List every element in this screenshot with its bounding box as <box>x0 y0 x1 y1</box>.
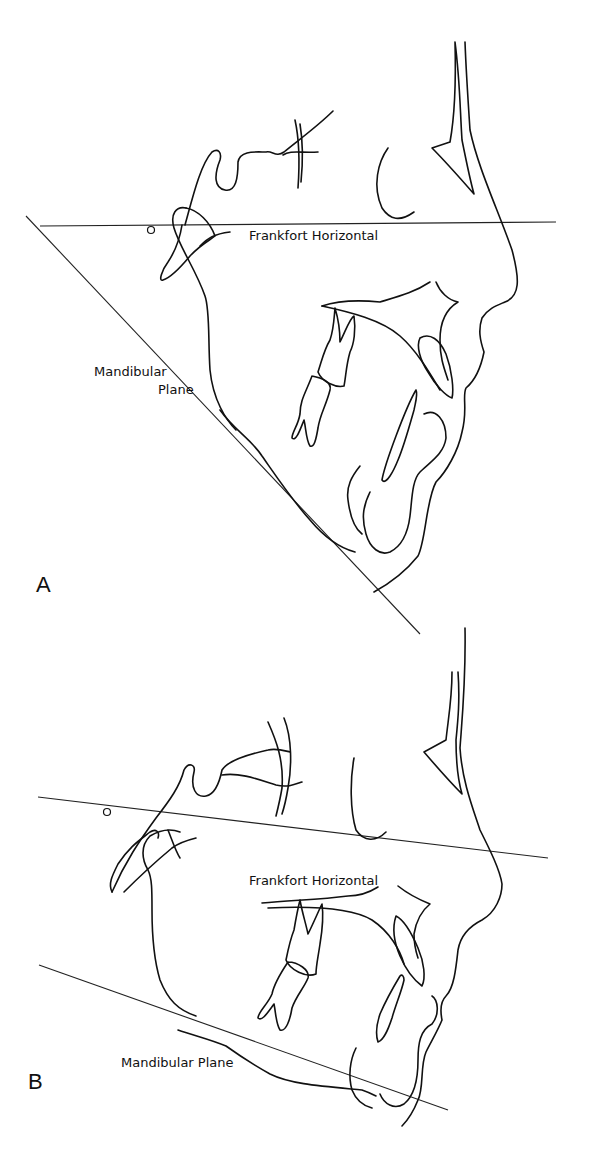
upper-incisor-b <box>394 916 424 986</box>
palate-a <box>322 282 430 306</box>
cranial-base-trace-b <box>112 749 290 892</box>
panel-b: Frankfort Horizontal Mandibular Plane B <box>28 628 548 1126</box>
mandibular-plane-label-b: Mandibular Plane <box>121 1055 234 1070</box>
nasal-ala-b <box>351 758 386 839</box>
lower-molar-b <box>258 962 308 1030</box>
frontal-nasal-a <box>432 42 474 194</box>
maxilla-b <box>268 907 404 964</box>
mandibular-plane-line-b <box>39 965 448 1110</box>
frontal-nasal-b <box>424 672 462 794</box>
palate-b <box>262 887 378 903</box>
chin-a <box>363 412 446 553</box>
lower-incisor-a <box>382 390 417 481</box>
coronoid-a <box>161 208 215 280</box>
mandibular-plane-label-a-line2: Plane <box>158 382 194 397</box>
mandible-border-a <box>220 410 355 552</box>
orbit-rim-a <box>295 120 299 188</box>
cranial-base-trace-a <box>185 111 333 225</box>
zygoma-b <box>124 838 196 892</box>
mandibular-plane-label-a-line1: Mandibular <box>94 364 167 379</box>
upper-molar-b <box>286 900 323 975</box>
soft-tissue-profile-b <box>402 628 502 1126</box>
frankfort-horizontal-label-b: Frankfort Horizontal <box>249 873 378 888</box>
orbit-trace-a <box>283 152 318 155</box>
porion-marker-a <box>148 227 155 234</box>
mandibular-plane-line-a <box>26 216 420 634</box>
orbit-rim2-a <box>300 124 302 182</box>
panel-a: Frankfort Horizontal Mandibular Plane A <box>26 42 556 634</box>
anterior-maxilla-a <box>436 282 458 380</box>
symphysis-b <box>350 1048 372 1108</box>
panel-label-a: A <box>36 572 51 597</box>
soft-tissue-profile-a <box>374 42 517 592</box>
orbit-rim-b <box>268 722 282 816</box>
orbit-rim2-b <box>282 718 291 814</box>
chin-b <box>380 996 437 1106</box>
nasal-ala-a <box>377 148 414 218</box>
frankfort-horizontal-label-a: Frankfort Horizontal <box>249 228 378 243</box>
frankfort-horizontal-line-a <box>40 222 556 226</box>
upper-incisor-a <box>418 336 452 398</box>
ramus-b <box>143 830 196 1016</box>
lower-incisor-b <box>377 975 404 1042</box>
cephalometric-figure: Frankfort Horizontal Mandibular Plane A <box>0 0 590 1153</box>
upper-molar-a <box>318 308 355 386</box>
porion-marker-b <box>104 809 111 816</box>
maxilla-a <box>322 306 440 390</box>
lower-molar-a <box>292 376 330 446</box>
symphysis-a <box>348 466 362 534</box>
panel-label-b: B <box>28 1069 43 1094</box>
